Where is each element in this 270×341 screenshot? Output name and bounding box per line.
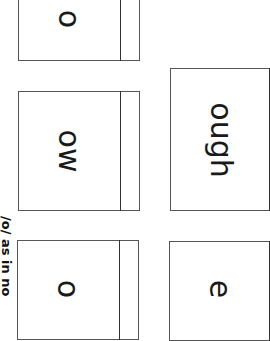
card-label: ow [54, 130, 84, 173]
card-label-wrap: ough [171, 69, 270, 210]
card-label-wrap: o [18, 241, 118, 339]
phoneme-card-ow: ow [18, 91, 140, 211]
card-tab-divider [120, 0, 121, 61]
card-tab-divider [119, 240, 120, 340]
card-label-wrap: o [19, 0, 119, 60]
phoneme-card-e: e [169, 241, 270, 341]
card-label: o [53, 280, 83, 298]
card-label: e [205, 280, 235, 298]
card-label-wrap: e [170, 242, 270, 340]
card-label: o [54, 10, 84, 28]
phoneme-card-ough: ough [170, 68, 270, 211]
card-label-wrap: ow [19, 92, 119, 210]
phoneme-card-o-top: o [18, 0, 140, 61]
card-tab-divider [120, 91, 121, 211]
card-label: ough [206, 102, 236, 177]
phoneme-card-o-bottom: o [17, 240, 139, 340]
worksheet-heading: /o/ as in no [0, 216, 14, 334]
